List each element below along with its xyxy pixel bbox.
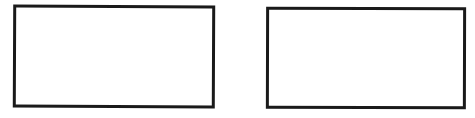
empty-rectangle-right xyxy=(266,7,466,110)
box-label-left xyxy=(16,56,212,57)
box-label-right xyxy=(269,58,463,59)
empty-rectangle-left xyxy=(13,5,215,109)
diagram-canvas xyxy=(0,0,475,118)
